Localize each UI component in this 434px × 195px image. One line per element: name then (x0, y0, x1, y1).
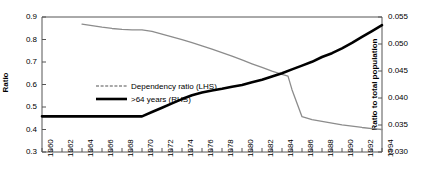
y-tick-label-left: 0.5 (11, 102, 37, 111)
y-tick-label-left: 0.7 (11, 57, 37, 66)
legend-line-samples (96, 86, 127, 99)
y-tick-label-left: 0.3 (11, 147, 37, 156)
y-tick-label-right: 0.045 (388, 66, 422, 75)
y-tick-label-right: 0.035 (388, 120, 422, 129)
chart-figure: Ratio Ratio to total population Dependen… (0, 0, 434, 195)
x-tick-label: 1966 (106, 139, 115, 157)
x-tick-label: 1984 (286, 139, 295, 157)
x-tick-label: 1970 (146, 139, 155, 157)
x-tick-label: 1980 (246, 139, 255, 157)
x-tick-label: 1968 (126, 139, 135, 157)
x-tick-label: 1978 (226, 139, 235, 157)
x-tick-label: 1990 (346, 139, 355, 157)
x-tick-label: 1992 (366, 139, 375, 157)
series-line-dependency-ratio-lhs (82, 24, 382, 129)
y-tick-label-right: 0.055 (388, 12, 422, 21)
x-tick-label: 1994 (386, 139, 395, 157)
legend-label-dependency-ratio: Dependency ratio (LHS) (131, 82, 217, 91)
y-tick-label-left: 0.4 (11, 125, 37, 134)
y-tick-label-right: 0.040 (388, 93, 422, 102)
series-line-64-years-rhs (42, 25, 382, 116)
y-tick-label-left: 0.8 (11, 35, 37, 44)
legend-label-over-64: >64 years (RHS) (131, 95, 191, 104)
x-tick-label: 1964 (86, 139, 95, 157)
x-tick-label: 1986 (306, 139, 315, 157)
plot-area (0, 0, 434, 195)
x-tick-label: 1976 (206, 139, 215, 157)
y-tick-label-left: 0.6 (11, 80, 37, 89)
data-series (42, 24, 382, 129)
x-tick-label: 1960 (46, 139, 55, 157)
x-tick-label: 1982 (266, 139, 275, 157)
y-tick-label-right: 0.050 (388, 39, 422, 48)
x-tick-label: 1972 (166, 139, 175, 157)
x-tick-label: 1974 (186, 139, 195, 157)
x-tick-label: 1962 (66, 139, 75, 157)
x-tick-label: 1988 (326, 139, 335, 157)
y-tick-label-left: 0.9 (11, 12, 37, 21)
